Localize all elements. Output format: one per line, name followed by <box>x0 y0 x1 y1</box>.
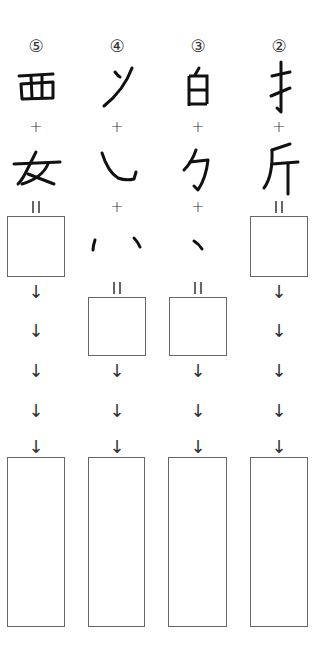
plus-operator: + <box>264 119 294 135</box>
radical-dot-icon <box>190 238 210 254</box>
plus-operator: + <box>102 199 132 215</box>
radical-dots-icon <box>90 236 150 256</box>
down-arrow-icon: ↓ <box>102 438 132 456</box>
answer-box-tall[interactable] <box>168 457 227 627</box>
radical-ono-icon <box>262 142 302 196</box>
answer-box-small[interactable] <box>88 297 146 356</box>
radical-otsu-icon <box>100 150 138 184</box>
down-arrow-icon: ↓ <box>183 362 213 380</box>
plus-operator: + <box>183 199 213 215</box>
down-arrow-icon: ↓ <box>21 362 51 380</box>
down-arrow-icon: ↓ <box>102 362 132 380</box>
down-arrow-icon: ↓ <box>264 283 294 301</box>
down-arrow-icon: ↓ <box>183 402 213 420</box>
answer-box-tall[interactable] <box>88 457 145 627</box>
down-arrow-icon: ↓ <box>183 438 213 456</box>
radical-shiro-icon <box>184 66 212 108</box>
answer-box-small[interactable] <box>169 297 227 356</box>
down-arrow-icon: ↓ <box>102 402 132 420</box>
down-arrow-icon: ↓ <box>264 438 294 456</box>
down-arrow-icon: ↓ <box>264 402 294 420</box>
down-arrow-icon: ↓ <box>264 322 294 340</box>
column-number: ③ <box>178 36 218 56</box>
column-number: ⑤ <box>16 36 56 56</box>
radical-tehen-icon <box>268 60 294 114</box>
answer-box-small[interactable] <box>7 216 65 277</box>
plus-operator: + <box>183 119 213 135</box>
answer-box-small[interactable] <box>250 216 308 277</box>
answer-box-tall[interactable] <box>250 457 308 627</box>
column-number: ② <box>259 36 299 56</box>
answer-box-tall[interactable] <box>7 457 65 627</box>
down-arrow-icon: ↓ <box>21 283 51 301</box>
plus-operator: + <box>21 119 51 135</box>
down-arrow-icon: ↓ <box>21 438 51 456</box>
column-number: ④ <box>97 36 137 56</box>
radical-so-icon <box>100 66 136 108</box>
plus-operator: + <box>102 119 132 135</box>
radical-onna-icon <box>12 150 62 186</box>
radical-tsutsumi-icon <box>182 148 218 192</box>
down-arrow-icon: ↓ <box>264 362 294 380</box>
down-arrow-icon: ↓ <box>21 402 51 420</box>
down-arrow-icon: ↓ <box>21 322 51 340</box>
radical-nishi-icon <box>17 70 57 100</box>
